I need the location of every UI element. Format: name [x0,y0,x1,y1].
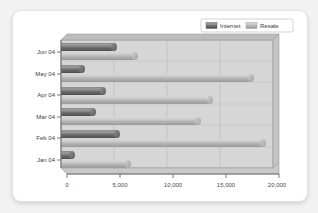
x-axis-tick-0: 0 [65,182,69,188]
y-axis-label-feb-04: Feb 04 [36,135,55,141]
x-axis-tick-15000: 15,000 [217,182,236,188]
x-axis-ticks [67,174,279,178]
bar-resale-feb-04 [61,139,266,147]
x-axis-tick-20000: 20,000 [268,182,287,188]
bar-internet-jan-04 [61,151,75,159]
bar-chart-svg: Jun 04 May 04 Apr 04 Mar 04 Feb 04 Jan 0… [13,11,307,201]
bar-resale-jan-04 [61,160,131,168]
y-axis-label-may-04: May 04 [35,71,55,77]
bar-internet-may-04 [61,65,85,73]
legend-swatch-internet [206,23,217,29]
x-axis-tick-10000: 10,000 [164,182,183,188]
y-axis-label-apr-04: Apr 04 [37,92,55,98]
chart-card: Jun 04 May 04 Apr 04 Mar 04 Feb 04 Jan 0… [12,10,308,202]
bar-resale-may-04 [61,74,254,82]
legend-swatch-resale [246,23,257,29]
bar-internet-jun-04 [61,43,117,51]
bar-resale-mar-04 [61,117,201,125]
bar-internet-mar-04 [61,108,96,116]
bar-internet-feb-04 [61,130,120,138]
chart-legend: Internet Resale [201,19,293,32]
bar-resale-jun-04 [61,52,138,60]
y-axis-label-mar-04: Mar 04 [36,114,55,120]
legend-label-resale: Resale [260,23,279,29]
bar-internet-apr-04 [61,87,106,95]
x-axis-tick-5000: 5,000 [112,182,128,188]
bar-resale-apr-04 [61,96,213,104]
y-axis-label-jun-04: Jun 04 [37,49,56,55]
y-axis-ticks [57,52,61,160]
legend-label-internet: Internet [220,23,241,29]
y-axis-label-jan-04: Jan 04 [37,157,56,163]
chart-plot-area: Jun 04 May 04 Apr 04 Mar 04 Feb 04 Jan 0… [13,11,307,201]
